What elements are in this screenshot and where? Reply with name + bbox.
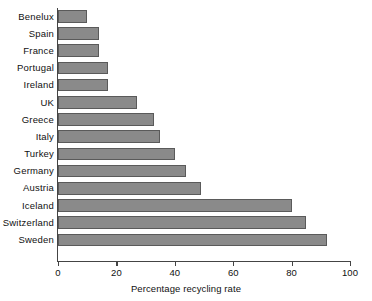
category-label: Germany <box>14 166 54 176</box>
category-label: Turkey <box>24 149 54 159</box>
bar-series <box>58 8 350 249</box>
x-axis-title: Percentage recycling rate <box>0 283 372 294</box>
plot-area <box>58 8 350 261</box>
x-tick-label: 0 <box>55 267 60 278</box>
x-tick-mark <box>58 262 59 266</box>
recycling-rate-bar-chart: BeneluxSpainFrancePortugalIrelandUKGreec… <box>0 0 372 301</box>
category-label: UK <box>40 98 54 108</box>
category-label-row: Austria <box>0 180 54 197</box>
bar-row <box>58 111 350 128</box>
x-tick-mark <box>292 262 293 266</box>
category-label: Sweden <box>19 235 54 245</box>
x-tick-label: 20 <box>111 267 122 278</box>
x-tick-label: 80 <box>286 267 297 278</box>
category-label-row: Iceland <box>0 197 54 214</box>
bar-row <box>58 146 350 163</box>
bar <box>58 44 99 57</box>
bar-row <box>58 42 350 59</box>
category-label: Spain <box>29 29 54 39</box>
x-tick-mark <box>233 262 234 266</box>
bar-row <box>58 214 350 231</box>
bar <box>58 62 108 75</box>
category-label-row: Spain <box>0 25 54 42</box>
x-tick-label: 60 <box>228 267 239 278</box>
category-label: France <box>23 46 54 56</box>
category-label: Iceland <box>22 201 54 211</box>
bar-row <box>58 8 350 25</box>
category-label: Austria <box>23 183 54 193</box>
bar <box>58 113 154 126</box>
bar <box>58 27 99 40</box>
category-label: Benelux <box>18 12 54 22</box>
bar <box>58 96 137 109</box>
bar <box>58 148 175 161</box>
x-tick-mark <box>350 262 351 266</box>
bar <box>58 216 306 229</box>
x-tick-label: 100 <box>342 267 358 278</box>
bar-row <box>58 163 350 180</box>
category-label: Italy <box>36 132 54 142</box>
category-label-row: Turkey <box>0 146 54 163</box>
category-label: Greece <box>22 115 54 125</box>
bar <box>58 182 201 195</box>
category-label-row: Ireland <box>0 77 54 94</box>
bar-row <box>58 60 350 77</box>
bar <box>58 165 186 178</box>
bar-row <box>58 197 350 214</box>
category-label: Switzerland <box>3 218 54 228</box>
category-label-row: Germany <box>0 163 54 180</box>
bar-row <box>58 231 350 248</box>
bar <box>58 199 292 212</box>
category-label-row: Greece <box>0 111 54 128</box>
x-tick-mark <box>116 262 117 266</box>
category-label-row: Italy <box>0 128 54 145</box>
category-label-row: Sweden <box>0 231 54 248</box>
category-label-row: Switzerland <box>0 214 54 231</box>
bar <box>58 10 87 23</box>
bar-row <box>58 180 350 197</box>
bar-row <box>58 25 350 42</box>
x-tick-mark <box>175 262 176 266</box>
bar <box>58 79 108 92</box>
bar <box>58 130 160 143</box>
bar-row <box>58 128 350 145</box>
category-label-row: Portugal <box>0 60 54 77</box>
x-axis-line <box>57 261 351 262</box>
bar-row <box>58 94 350 111</box>
bar <box>58 234 327 247</box>
category-label-row: Benelux <box>0 8 54 25</box>
x-tick-label: 40 <box>170 267 181 278</box>
category-label-row: UK <box>0 94 54 111</box>
category-label: Portugal <box>17 63 54 73</box>
bar-row <box>58 77 350 94</box>
category-label-row: France <box>0 42 54 59</box>
category-axis-labels: BeneluxSpainFrancePortugalIrelandUKGreec… <box>0 8 54 249</box>
category-label: Ireland <box>24 80 54 90</box>
